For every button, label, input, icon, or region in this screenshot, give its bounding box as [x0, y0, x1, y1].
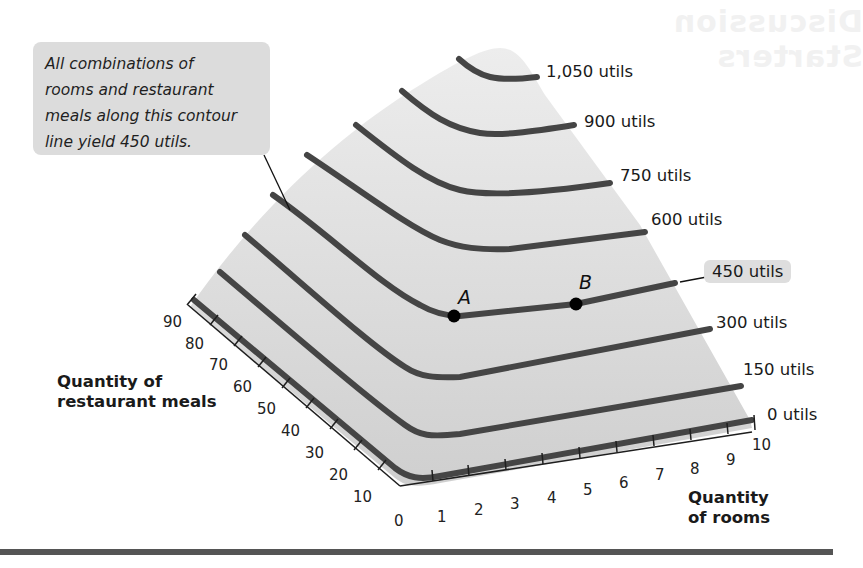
rooms-axis-title: Quantity of rooms [688, 488, 770, 528]
rooms-axis-title-line1: Quantity [688, 488, 770, 508]
rooms-tick-2: 2 [474, 501, 484, 519]
callout-line-4: line yield 450 utils. [45, 129, 260, 155]
meals-tick-40: 40 [281, 422, 300, 440]
meals-tick-90: 90 [163, 313, 182, 331]
callout-line-3: meals along this contour [45, 103, 260, 129]
rooms-tick-8: 8 [690, 460, 700, 478]
rooms-tick-7: 7 [655, 466, 665, 484]
meals-tick-60: 60 [233, 378, 252, 396]
callout-line-2: rooms and restaurant [45, 77, 260, 103]
meals-axis-title-line1: Quantity of [57, 372, 217, 392]
contour-callout: All combinations of rooms and restaurant… [33, 42, 270, 155]
label-150: 150 utils [743, 360, 814, 379]
point-b [570, 298, 583, 311]
rooms-tick-1: 1 [437, 508, 447, 526]
meals-tick-50: 50 [257, 400, 276, 418]
label-600: 600 utils [651, 210, 722, 229]
rooms-tick-10: 10 [752, 436, 771, 454]
point-b-label: B [579, 271, 592, 293]
callout-line-1: All combinations of [45, 51, 260, 77]
meals-tick-30: 30 [305, 444, 324, 462]
meals-axis-title-line2: restaurant meals [57, 392, 217, 412]
point-a [448, 310, 461, 323]
label-0: 0 utils [767, 405, 817, 424]
label-900: 900 utils [584, 112, 655, 131]
rooms-tick-5: 5 [583, 481, 593, 499]
point-a-label: A [458, 286, 471, 308]
rooms-tick-3: 3 [510, 495, 520, 513]
label-300: 300 utils [716, 313, 787, 332]
meals-tick-80: 80 [185, 335, 204, 353]
rooms-tick-6: 6 [619, 474, 629, 492]
label-1050: 1,050 utils [546, 62, 633, 81]
rooms-tick-9: 9 [726, 451, 736, 469]
utility-surface [190, 48, 752, 486]
rooms-axis-title-line2: of rooms [688, 508, 770, 528]
meals-tick-20: 20 [329, 466, 348, 484]
meals-axis-title: Quantity of restaurant meals [57, 372, 217, 412]
bottom-divider [0, 549, 833, 555]
meals-tick-10: 10 [353, 488, 372, 506]
label-750: 750 utils [620, 166, 691, 185]
rooms-tick-4: 4 [547, 489, 557, 507]
origin-tick: 0 [394, 512, 404, 530]
label-450: 450 utils [704, 260, 791, 283]
